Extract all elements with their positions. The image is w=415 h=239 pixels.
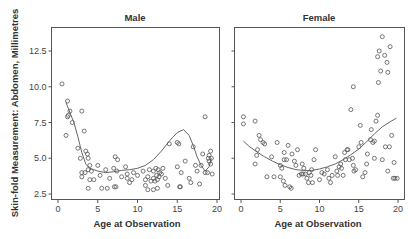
data-point — [78, 156, 82, 160]
data-point — [136, 173, 140, 177]
data-point — [120, 175, 124, 179]
data-point — [329, 181, 333, 185]
data-point — [146, 188, 150, 192]
data-point — [296, 148, 300, 152]
data-point — [388, 45, 392, 49]
data-point — [105, 186, 109, 190]
data-point — [189, 181, 193, 185]
data-point — [294, 163, 298, 167]
data-point — [143, 183, 147, 187]
data-point — [210, 172, 214, 176]
smooth-curve-male — [66, 103, 211, 173]
x-tick-label: 10 — [314, 204, 324, 214]
data-point — [392, 161, 396, 165]
data-point — [66, 99, 70, 103]
data-point — [390, 133, 394, 137]
data-point — [270, 155, 274, 159]
data-point — [369, 128, 373, 132]
y-tick-label: 5.0 — [34, 153, 47, 163]
data-point — [305, 176, 309, 180]
x-tick-label: 15 — [172, 204, 182, 214]
data-point — [351, 163, 355, 167]
data-point — [330, 173, 334, 177]
data-point — [161, 166, 165, 170]
data-point — [76, 146, 80, 150]
data-point — [333, 155, 337, 159]
data-point — [175, 165, 179, 169]
data-point — [349, 108, 353, 112]
x-tick-label: 5 — [278, 204, 283, 214]
data-point — [116, 158, 120, 162]
data-point — [386, 169, 390, 173]
data-point — [253, 162, 257, 166]
data-point — [183, 159, 187, 163]
data-point — [351, 85, 355, 89]
data-point — [203, 115, 207, 119]
x-tick-label: 20 — [393, 204, 403, 214]
x-tick-label: 5 — [95, 204, 100, 214]
data-point — [201, 152, 205, 156]
data-point — [325, 168, 329, 172]
data-point — [125, 172, 129, 176]
data-point — [310, 181, 314, 185]
data-point — [147, 168, 151, 172]
data-point — [166, 183, 170, 187]
data-point — [194, 163, 198, 167]
data-point — [80, 175, 84, 179]
data-point — [300, 162, 304, 166]
data-point — [377, 49, 381, 53]
data-point — [241, 122, 245, 126]
data-point — [60, 82, 64, 86]
data-point — [179, 171, 183, 175]
data-point — [376, 55, 380, 59]
data-point — [302, 166, 306, 170]
data-point — [88, 163, 92, 167]
data-point — [383, 53, 387, 57]
y-tick-label: 7.5 — [34, 118, 47, 128]
data-point — [167, 142, 171, 146]
y-tick-label: 10.0 — [29, 82, 47, 92]
x-axis-male: 05101520 — [55, 200, 222, 215]
panel-title-female: Female — [303, 12, 336, 23]
data-point — [380, 35, 384, 39]
data-point — [124, 165, 128, 169]
data-point — [88, 178, 92, 182]
y-axis-male: 2.55.07.510.012.5 — [29, 46, 52, 199]
data-point — [151, 188, 155, 192]
data-point — [335, 169, 339, 173]
y-tick-label: 12.5 — [29, 46, 47, 56]
data-point — [130, 178, 134, 182]
data-point — [86, 156, 90, 160]
data-point — [255, 153, 259, 157]
data-point — [376, 113, 380, 117]
data-point — [141, 169, 145, 173]
panel-female: Female 05101520 Age at Observation — [232, 12, 405, 229]
data-point — [286, 143, 290, 147]
data-point — [163, 176, 167, 180]
data-points-female — [241, 35, 399, 191]
data-point — [292, 159, 296, 163]
data-point — [365, 162, 369, 166]
skinfold-scatter-chart: Skin-fold Measurement: Abdomen, Millimet… — [0, 0, 415, 239]
y-tick-label: 2.5 — [34, 189, 47, 199]
data-point — [257, 133, 261, 137]
data-point — [357, 145, 361, 149]
data-point — [92, 178, 96, 182]
data-point — [385, 60, 389, 64]
data-point — [380, 158, 384, 162]
data-point — [256, 148, 260, 152]
data-point — [108, 176, 112, 180]
data-point — [198, 182, 202, 186]
panel-male: Male 2.55.07.510.012.5 05101520 Age at O… — [29, 12, 222, 229]
x-axis-female: 05101520 — [238, 200, 403, 215]
data-point — [187, 176, 191, 180]
data-point — [100, 186, 104, 190]
data-point — [336, 173, 340, 177]
data-point — [318, 178, 322, 182]
data-point — [281, 179, 285, 183]
data-point — [104, 168, 108, 172]
x-tick-label: 10 — [132, 204, 142, 214]
data-point — [98, 173, 102, 177]
data-point — [365, 152, 369, 156]
data-point — [376, 81, 380, 85]
